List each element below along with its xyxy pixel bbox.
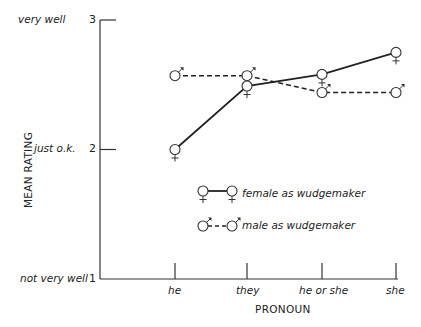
female-marker-icon bbox=[198, 186, 208, 196]
x-tick-he-or-she: he or she bbox=[299, 284, 348, 296]
y-tick-3: 3 bbox=[89, 13, 96, 26]
y-label-just-ok: just o.k. bbox=[34, 142, 76, 154]
x-axis-title: PRONOUN bbox=[255, 303, 311, 315]
female-marker-icon bbox=[391, 47, 401, 57]
y-label-not-very-well: not very well bbox=[20, 272, 88, 284]
x-tick-she: she bbox=[386, 284, 405, 296]
male-series-line bbox=[175, 76, 396, 93]
female-series-line bbox=[175, 52, 396, 149]
y-label-very-well: very well bbox=[18, 13, 65, 25]
x-tick-they: they bbox=[236, 284, 259, 296]
female-marker-icon bbox=[227, 186, 237, 196]
y-tick-1: 1 bbox=[89, 272, 96, 285]
y-tick-2: 2 bbox=[89, 142, 96, 155]
female-marker-icon bbox=[170, 145, 180, 155]
female-marker-icon bbox=[242, 81, 252, 91]
female-marker-icon bbox=[317, 69, 327, 79]
plot-markers bbox=[170, 47, 405, 161]
legend-symbols bbox=[198, 186, 241, 231]
axes bbox=[100, 20, 398, 279]
legend-female-label: female as wudgemaker bbox=[242, 187, 365, 199]
x-tick-he: he bbox=[168, 284, 181, 296]
plot-lines bbox=[175, 52, 396, 149]
legend-male-label: male as wudgemaker bbox=[242, 219, 355, 231]
y-axis-title: MEAN RATING bbox=[22, 132, 34, 208]
